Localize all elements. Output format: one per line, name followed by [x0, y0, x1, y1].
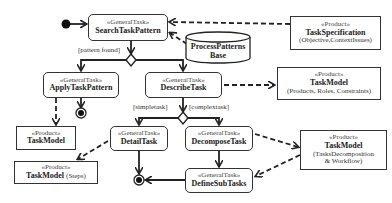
product-detail-line2: & Workflow)	[325, 158, 363, 166]
product-task-model[interactable]: «Product» TaskModel	[16, 126, 76, 150]
task-apply-task-pattern[interactable]: «GeneralTask» ApplyTaskPattern	[43, 72, 119, 98]
task-search-task-pattern[interactable]: «GeneralTask» SearchTaskPattern	[88, 14, 168, 41]
task-name: DefineSubTasks	[192, 180, 247, 189]
task-name: ApplyTaskPattern	[50, 84, 113, 93]
product-task-specification[interactable]: «Product» TaskSpecification (Objective,C…	[290, 16, 381, 50]
datastore-label-line2: Base	[186, 52, 250, 61]
initial-node	[62, 20, 71, 29]
product-name: TaskModel	[27, 137, 65, 146]
process-patterns-base-datastore: ProcessPatterns Base	[186, 43, 250, 61]
guard-pattern-found: [pattern found]	[78, 46, 120, 54]
task-name: DescribeTask	[161, 84, 207, 93]
guard-complextask: [complextask]	[189, 103, 229, 111]
task-detail-task[interactable]: «GeneralTask» DetailTask	[110, 126, 168, 151]
guard-simpletask: [simpletask]	[133, 103, 168, 111]
product-task-model-products-roles[interactable]: «Product» TaskModel (Products, Roles, Co…	[277, 67, 381, 100]
product-detail: (Products, Roles, Constraints)	[287, 88, 371, 96]
task-decompose-task[interactable]: «GeneralTask» DecomposeTask	[185, 126, 253, 151]
task-name: DetailTask	[121, 138, 158, 147]
product-name-row: TaskModel (Steps)	[26, 172, 86, 181]
task-describe-task[interactable]: «GeneralTask» DescribeTask	[145, 72, 222, 98]
product-task-model-decomposition[interactable]: «Product» TaskModel (TasksDecomposition …	[300, 130, 387, 170]
task-define-sub-tasks[interactable]: «GeneralTask» DefineSubTasks	[185, 168, 253, 193]
product-detail: (Steps)	[66, 173, 86, 181]
task-name: DecomposeTask	[192, 138, 247, 147]
product-detail: (Objective,ContextIssues)	[299, 37, 372, 45]
product-task-model-steps[interactable]: «Product» TaskModel (Steps)	[14, 161, 98, 184]
task-name: SearchTaskPattern	[95, 27, 160, 36]
product-name: TaskModel	[26, 172, 64, 181]
